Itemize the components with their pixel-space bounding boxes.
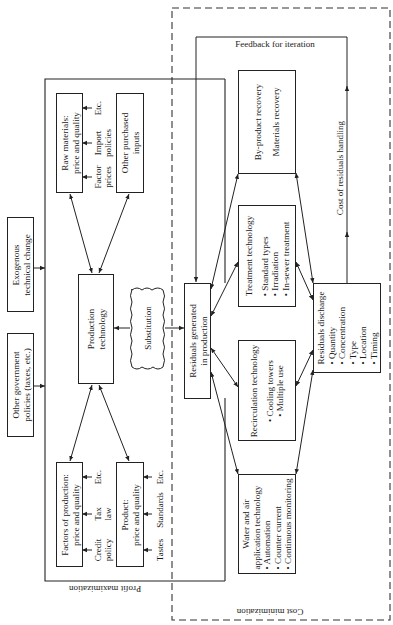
residuals-generated-box: Residuals generatedin production — [184, 283, 211, 399]
residuals-discharge-box: Residuals discharge Quantity Concentrati… — [313, 283, 381, 373]
treatment-technology-box: Treatment technology Standard types Irra… — [238, 205, 296, 307]
factors-etc-label: Etc. — [93, 470, 103, 484]
other-purchased-inputs-box: Other purchasedinputs — [116, 93, 144, 193]
substitution-label: Substitution — [143, 306, 153, 350]
production-technology-box: Productiontechnology — [78, 274, 114, 384]
water-air-technology-box: Water and air application technology Aut… — [238, 474, 296, 574]
cost-minimization-label: Cost minimization — [237, 607, 304, 617]
credit-policy-label: Creditpolicy — [93, 539, 113, 562]
profit-maximization-label: Profit maximization — [69, 584, 141, 594]
exogenous-technical-change-box: Exogenoustechnical change — [7, 217, 34, 312]
feedback-for-iteration-label: Feedback for iteration — [235, 39, 314, 49]
import-policies-label: Importpolicies — [93, 129, 113, 157]
other-government-policies-box: Other governmentpolicies (taxes, etc.) — [7, 333, 34, 437]
byproduct-recovery-box: By-product recoveryMaterials recovery — [238, 70, 296, 174]
tastes-label: Tastes — [155, 539, 165, 561]
factor-prices-label: Factorprices — [93, 166, 113, 189]
cost-of-residuals-handling-label: Cost of residuals handling — [335, 121, 345, 215]
factors-of-production-box: Factors of production:price and quality — [56, 462, 83, 567]
recirculation-technology-box: Recirculation technology Cooling towers … — [238, 340, 296, 441]
raw-materials-box: Raw materials:price and quality — [56, 93, 83, 193]
standards-label: Standards — [155, 492, 165, 528]
tax-law-label: Taxlaw — [93, 507, 113, 520]
product-box: Product:price and quality — [116, 462, 144, 567]
raw-etc-label: Etc. — [93, 101, 103, 115]
product-etc-label: Etc. — [155, 470, 165, 484]
